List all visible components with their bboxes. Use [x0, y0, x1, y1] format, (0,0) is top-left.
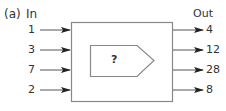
- input-value: 3: [28, 44, 35, 56]
- machine-box: [72, 23, 173, 102]
- input-value: 2: [28, 84, 35, 96]
- output-arrows: [173, 30, 203, 90]
- figure-label: (a): [4, 8, 21, 20]
- out-header: Out: [193, 8, 213, 20]
- input-value: 1: [28, 24, 35, 36]
- input-arrows: [40, 30, 70, 90]
- machine-unknown-label: ?: [111, 54, 117, 66]
- output-value: 8: [206, 84, 213, 96]
- output-value: 28: [206, 64, 220, 76]
- input-value: 7: [28, 64, 35, 76]
- function-pentagon: [91, 46, 155, 77]
- output-value: 12: [206, 44, 220, 56]
- output-value: 4: [206, 24, 213, 36]
- in-header: In: [26, 8, 37, 20]
